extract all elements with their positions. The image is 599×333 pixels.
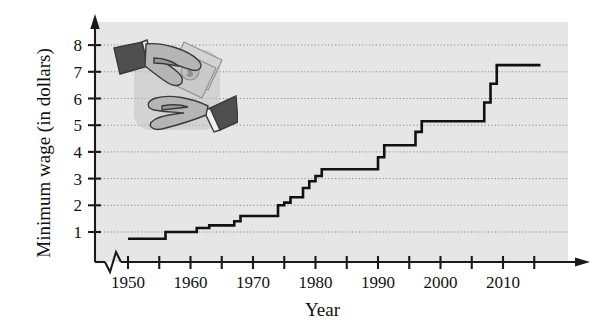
- x-axis-title-text: Year: [305, 299, 340, 321]
- xtick-label-1990: 1990: [361, 273, 395, 292]
- ytick-label-8: 8: [74, 36, 83, 55]
- ytick-label-5: 5: [74, 116, 83, 135]
- xtick-label-2010: 2010: [486, 273, 520, 292]
- x-axis-title: Year: [0, 299, 599, 321]
- ytick-label-1: 1: [74, 223, 83, 242]
- xtick-label-1970: 1970: [236, 273, 270, 292]
- ytick-label-2: 2: [74, 196, 83, 215]
- xtick-label-1980: 1980: [299, 273, 333, 292]
- ytick-label-6: 6: [74, 90, 83, 109]
- y-axis-tick-labels: 12345678: [74, 36, 83, 242]
- x-axis-tick-labels: 1950196019701980199020002010: [111, 273, 520, 292]
- ytick-label-3: 3: [74, 170, 83, 189]
- xtick-label-1950: 1950: [111, 273, 145, 292]
- xtick-label-1960: 1960: [174, 273, 208, 292]
- xtick-label-2000: 2000: [424, 273, 458, 292]
- minimum-wage-chart-figure: 12345678 1950196019701980199020002010 $: [0, 0, 599, 333]
- plot-background: [95, 22, 568, 262]
- y-axis-title: Minimum wage (in dollars): [33, 13, 55, 293]
- ytick-label-7: 7: [74, 63, 83, 82]
- ytick-label-4: 4: [74, 143, 83, 162]
- chart-canvas: 12345678 1950196019701980199020002010: [0, 0, 599, 333]
